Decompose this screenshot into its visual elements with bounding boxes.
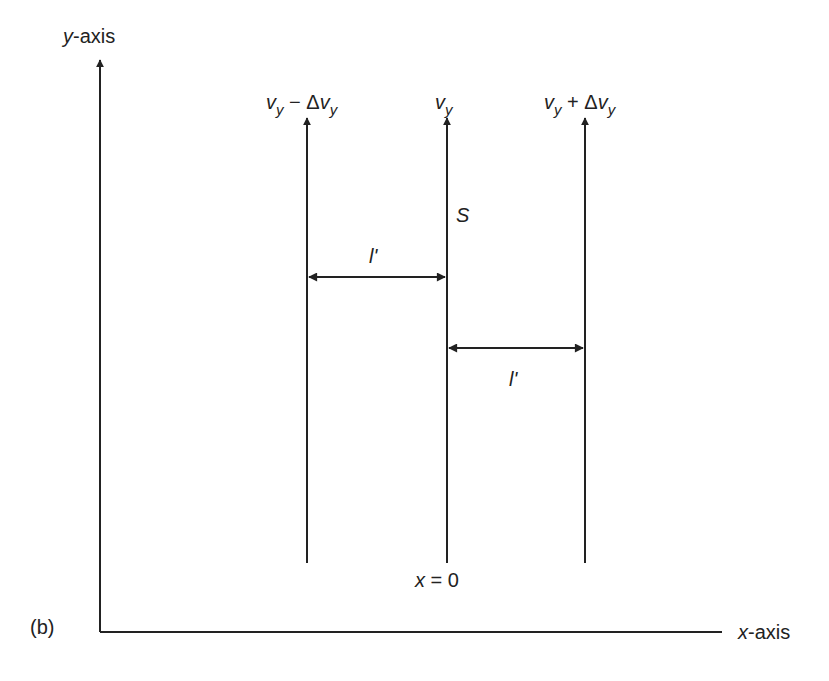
velocity-label-plus: vy + Δvy [544,92,615,112]
minus-delta: − Δ [284,91,320,113]
surface-label: S [456,205,469,225]
panel-label: (b) [30,617,54,637]
origin-label: x = 0 [415,570,459,590]
v-symbol: v [598,91,608,113]
v-symbol: v [435,91,445,113]
y-subscript: y [330,101,338,118]
y-axis-text: -axis [73,25,115,47]
x-var: x [415,569,425,591]
y-subscript: y [554,101,562,118]
plus-delta: + Δ [562,91,598,113]
x-axis-var: x [738,621,748,643]
v-symbol: v [320,91,330,113]
y-axis-label: y-axis [63,26,115,46]
velocity-label-minus: vy − Δvy [266,92,337,112]
y-subscript: y [276,101,284,118]
equals-zero: = 0 [425,569,459,591]
x-axis-text: -axis [748,621,790,643]
spacing-label-left: l' [369,246,377,266]
velocity-label-center: vy [435,92,453,112]
v-symbol: v [266,91,276,113]
y-axis-var: y [63,25,73,47]
spacing-label-right: l' [509,369,517,389]
x-axis-label: x-axis [738,622,790,642]
y-subscript: y [445,101,453,118]
v-symbol: v [544,91,554,113]
y-subscript: y [608,101,616,118]
